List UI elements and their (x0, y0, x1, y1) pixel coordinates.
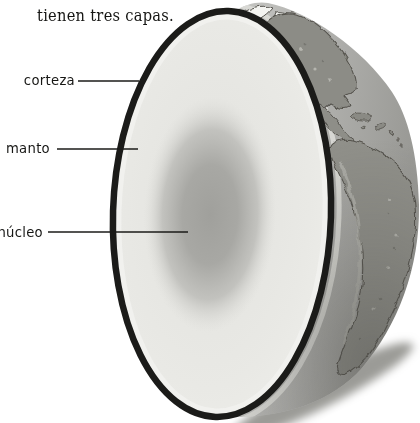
label-manto: manto (6, 141, 50, 156)
label-corteza: corteza (24, 73, 75, 88)
earth-cutaway-diagram: corteza manto núcleo tienen tres capas. (0, 0, 420, 423)
label-nucleo: núcleo (0, 225, 43, 240)
page-title: tienen tres capas. (37, 5, 174, 25)
